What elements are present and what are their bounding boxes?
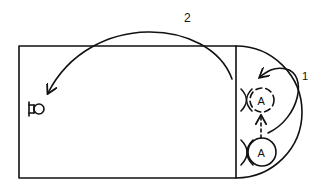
path-label-1: 1	[302, 70, 308, 82]
player-a-start: A	[248, 138, 276, 166]
pass-path-2	[48, 32, 232, 93]
player-a-destination: A	[250, 88, 274, 112]
diagram-canvas: 2 1 A A	[0, 0, 321, 187]
path-label-2: 2	[184, 11, 191, 25]
basket-icon	[29, 102, 44, 116]
court-rectangle	[19, 46, 236, 178]
screen-mark-upper	[241, 89, 252, 111]
player-label: A	[258, 147, 266, 159]
player-label: A	[258, 95, 266, 107]
